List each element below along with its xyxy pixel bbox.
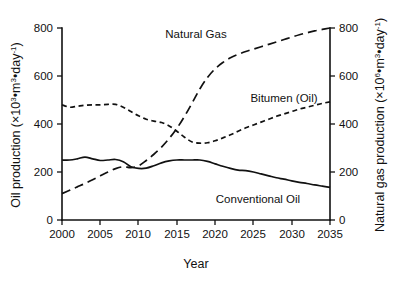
y2-tick-label-200: 200 — [339, 166, 358, 178]
y2-tick-label-0: 0 — [339, 214, 345, 226]
svg-text:Natural gas production (×106•m: Natural gas production (×106•m3•day-1) — [373, 18, 387, 232]
x-tick-label-2030: 2030 — [279, 228, 305, 240]
y2-tick-label-800: 800 — [339, 22, 358, 34]
x-tick-label-2020: 2020 — [202, 228, 228, 240]
x-axis-title: Year — [183, 257, 208, 271]
x-tick-label-2005: 2005 — [87, 228, 113, 240]
x-tick-label-2015: 2015 — [164, 228, 190, 240]
series-line-bitumen-oil — [62, 102, 330, 143]
y2-tick-label-400: 400 — [339, 118, 358, 130]
x-tick-label-2000: 2000 — [49, 228, 75, 240]
svg-text:Oil production (×103•m3•day-1): Oil production (×103•m3•day-1) — [9, 42, 23, 208]
chart-figure: Oil production (×103•m3•day-1) Natural g… — [0, 0, 396, 281]
series-label-bitumen-oil: Bitumen (Oil) — [250, 92, 317, 104]
series-annotations: Natural Gas Bitumen (Oil) Conventional O… — [165, 28, 317, 205]
y2-axis-ticks: 0 200 400 600 800 — [330, 22, 358, 226]
axes — [62, 28, 330, 220]
y2-axis-title: Natural gas production (×106•m3•day-1) — [373, 18, 387, 232]
y-tick-label-0: 0 — [47, 214, 53, 226]
series-label-conventional-oil: Conventional Oil — [216, 193, 300, 205]
y2-tick-label-600: 600 — [339, 70, 358, 82]
series-line-conventional-oil — [62, 157, 330, 187]
x-axis-ticks: 2000 2005 2010 2015 2020 2025 2030 2035 — [49, 220, 343, 240]
x-tick-label-2025: 2025 — [240, 228, 266, 240]
series-label-natural-gas: Natural Gas — [165, 28, 227, 40]
y-tick-label-600: 600 — [34, 70, 53, 82]
x-tick-label-2010: 2010 — [125, 228, 151, 240]
y-tick-label-800: 800 — [34, 22, 53, 34]
y-axis-title: Oil production (×103•m3•day-1) — [9, 42, 23, 208]
y-tick-label-200: 200 — [34, 166, 53, 178]
data-series-group — [62, 28, 330, 194]
y-axis-ticks: 0 200 400 600 800 — [34, 22, 62, 226]
x-tick-label-2035: 2035 — [317, 228, 343, 240]
y-tick-label-400: 400 — [34, 118, 53, 130]
chart-svg: Oil production (×103•m3•day-1) Natural g… — [0, 0, 396, 281]
series-line-natural-gas — [62, 28, 330, 194]
